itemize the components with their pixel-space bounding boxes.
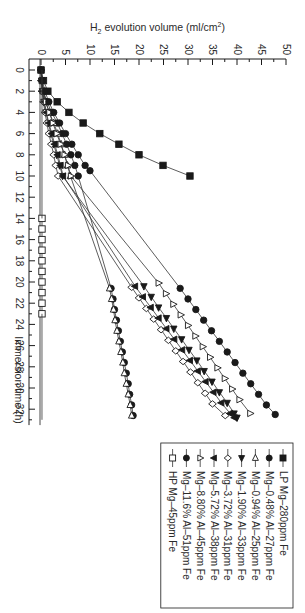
y-axis-label: H2 evolution volume (ml/cm2) [90, 21, 225, 35]
series-3 [38, 67, 240, 421]
triangle-up-open-marker [171, 301, 177, 307]
square-open-marker [39, 279, 45, 285]
circle-filled-marker [200, 317, 206, 323]
square-open-marker [39, 236, 45, 242]
diamond-open-marker [194, 380, 202, 386]
x-tick-label: 6 [14, 131, 25, 137]
circle-filled-marker [56, 120, 62, 126]
triangle-up-open-marker [248, 410, 254, 416]
legend-label: Mg–0.48% Al–27ppm Fe [264, 471, 275, 581]
x-tick-label: 22 [14, 298, 25, 310]
legend-label: Mg–0.94% Al–25ppm Fe [250, 471, 261, 581]
square-filled-marker [80, 120, 86, 126]
circle-filled-marker [62, 130, 68, 136]
triangle-up-open-marker [178, 312, 184, 318]
square-filled-marker [97, 130, 103, 136]
series-line [41, 70, 237, 418]
y-tick-label: 15 [109, 44, 120, 56]
circle-filled-marker [185, 296, 191, 302]
circle-filled-marker [224, 349, 230, 355]
series-line [41, 70, 275, 415]
x-tick-label: 10 [14, 170, 25, 182]
y-tick-label: 40 [232, 44, 243, 56]
circle-filled-marker [82, 162, 88, 168]
series-line [41, 70, 190, 176]
y-tick-label: 50 [281, 44, 292, 56]
legend-label: Mg–5.72% Al–38ppm Fe [209, 471, 220, 581]
square-filled-marker [66, 109, 72, 115]
square-filled-marker [116, 141, 122, 147]
series-line [41, 70, 250, 413]
chart-stage: 0510152025303540455002468101214161820222… [0, 0, 305, 613]
circle-filled-marker [208, 328, 214, 334]
square-open-marker [39, 258, 45, 264]
square-open-marker [39, 300, 45, 306]
square-open-marker [39, 289, 45, 295]
series-2 [38, 66, 135, 418]
circle-filled-marker [232, 359, 238, 365]
triangle-up-open-marker [222, 375, 228, 381]
square-filled-marker [160, 162, 166, 168]
triangle-up-open-marker [230, 386, 236, 392]
x-tick-label: 20 [14, 276, 25, 288]
square-filled-marker [187, 173, 193, 179]
y-tick-label: 10 [85, 44, 96, 56]
y-tick-label: 30 [183, 44, 194, 56]
legend: LP Mg–280ppm FeMg–0.48% Al–27ppm FeMg–0.… [161, 443, 293, 608]
triangle-down-filled-marker [202, 378, 208, 384]
x-tick-label: 16 [14, 234, 25, 246]
diamond-open-marker [201, 390, 209, 396]
square-open-marker [39, 268, 45, 274]
x-tick-label: 12 [14, 192, 25, 204]
square-filled-marker [136, 152, 142, 158]
circle-filled-marker [183, 455, 189, 461]
legend-label: Mg–1.90% Al–33ppm Fe [236, 471, 247, 581]
circle-filled-marker [42, 88, 48, 94]
h2-evolution-chart: 0510152025303540455002468101214161820222… [0, 0, 305, 613]
series-line [41, 70, 235, 418]
x-tick-label: 4 [14, 110, 25, 116]
y-tick-label: 25 [158, 44, 169, 56]
diamond-open-marker [179, 358, 187, 364]
triangle-down-filled-marker [194, 368, 200, 374]
triangle-up-open-marker [215, 365, 221, 371]
series-5 [37, 67, 237, 421]
square-filled-marker [54, 99, 60, 105]
square-open-marker [39, 226, 45, 232]
circle-filled-marker [248, 381, 254, 387]
x-axis-label: Immersion time (h) [13, 336, 25, 424]
x-tick-label: 18 [14, 255, 25, 267]
circle-filled-marker [39, 77, 45, 83]
circle-filled-marker [38, 67, 44, 73]
legend-label: LP Mg–280ppm Fe [278, 471, 289, 556]
triangle-down-filled-marker [178, 347, 184, 353]
circle-filled-marker [266, 455, 272, 461]
legend-label: Mg–11.6% Al–51ppm Fe [181, 471, 192, 580]
square-filled-marker [280, 455, 286, 461]
circle-filled-marker [216, 338, 222, 344]
triangle-up-open-marker [193, 333, 199, 339]
x-tick-label: 14 [14, 213, 25, 225]
square-open-marker [39, 247, 45, 253]
legend-label: Mg–3.72% Al–31ppm Fe [222, 471, 233, 581]
legend-label: HP Mg–45ppm Fe [167, 471, 178, 552]
triangle-up-open-marker [156, 280, 162, 286]
triangle-up-open-marker [237, 396, 243, 402]
circle-filled-marker [263, 402, 269, 408]
triangle-up-open-marker [163, 290, 169, 296]
triangle-up-open-marker [200, 343, 206, 349]
x-tick-label: 8 [14, 152, 25, 158]
circle-filled-marker [51, 109, 57, 115]
diamond-open-marker [172, 348, 180, 354]
data-series [37, 66, 278, 421]
circle-filled-marker [255, 391, 261, 397]
y-tick-label: 5 [60, 49, 71, 55]
circle-filled-marker [75, 152, 81, 158]
legend-label: Mg–8.80% Al–45ppm Fe [195, 471, 206, 581]
triangle-down-filled-marker [210, 389, 216, 395]
y-tick-label: 35 [207, 44, 218, 56]
y-tick-label: 20 [134, 44, 145, 56]
circle-filled-marker [69, 141, 75, 147]
circle-filled-marker [46, 99, 52, 105]
triangle-down-filled-marker [217, 400, 223, 406]
